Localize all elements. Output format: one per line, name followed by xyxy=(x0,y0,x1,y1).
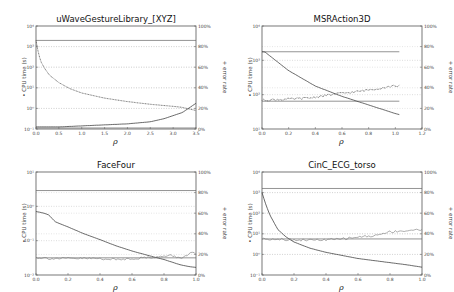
svg-text:80%: 80% xyxy=(424,44,435,49)
svg-text:10¹: 10¹ xyxy=(26,170,34,175)
svg-text:3.5: 3.5 xyxy=(192,131,199,136)
y-axis-label: • CPU time (s) xyxy=(21,193,27,253)
svg-text:80%: 80% xyxy=(424,190,435,195)
svg-text:80%: 80% xyxy=(198,44,209,49)
error-rate-series xyxy=(36,103,196,127)
svg-text:0.0: 0.0 xyxy=(32,277,39,282)
chart-title: FaceFour xyxy=(36,160,196,170)
svg-text:40%: 40% xyxy=(424,231,435,236)
svg-text:20%: 20% xyxy=(198,252,209,257)
x-axis-label: ρ xyxy=(339,283,344,292)
y-axis-label: • CPU time (s) xyxy=(21,47,27,107)
svg-text:10⁰: 10⁰ xyxy=(26,106,34,111)
cpu-time-series xyxy=(36,40,196,110)
svg-text:1.2: 1.2 xyxy=(418,131,425,136)
svg-text:40%: 40% xyxy=(424,85,435,90)
svg-text:10¹: 10¹ xyxy=(26,85,34,90)
svg-text:0.2: 0.2 xyxy=(64,277,71,282)
svg-text:10¹: 10¹ xyxy=(252,231,260,236)
svg-text:10²: 10² xyxy=(26,65,34,70)
x-axis-label: ρ xyxy=(113,137,118,146)
svg-text:0.4: 0.4 xyxy=(96,277,103,282)
svg-text:100%: 100% xyxy=(198,24,212,29)
svg-text:60%: 60% xyxy=(198,211,209,216)
chart-panel-2: 10¹10⁰10⁻¹10⁻²100%80%60%40%20%0%0.00.20.… xyxy=(0,146,226,292)
y-axis-label: • CPU time (s) xyxy=(247,47,253,107)
svg-text:2.0: 2.0 xyxy=(124,131,131,136)
cpu-time-series xyxy=(262,52,399,115)
svg-text:1.0: 1.0 xyxy=(392,131,399,136)
chart-title: uWaveGestureLibrary_[XYZ] xyxy=(36,14,196,24)
svg-text:10²: 10² xyxy=(252,92,260,97)
y2-axis-label: + error rate xyxy=(448,52,454,102)
svg-text:0.0: 0.0 xyxy=(258,131,265,136)
svg-text:40%: 40% xyxy=(198,85,209,90)
svg-text:60%: 60% xyxy=(424,211,435,216)
svg-text:20%: 20% xyxy=(424,106,435,111)
svg-text:0.2: 0.2 xyxy=(285,131,292,136)
svg-text:0.6: 0.6 xyxy=(354,277,361,282)
svg-text:1.0: 1.0 xyxy=(192,277,199,282)
svg-text:10³: 10³ xyxy=(252,58,260,63)
svg-text:10⁰: 10⁰ xyxy=(26,204,34,209)
svg-text:10⁴: 10⁴ xyxy=(26,24,34,29)
chart-panel-3: 10⁴10³10²10¹10⁰10⁻¹100%80%60%40%20%0%0.0… xyxy=(226,146,452,292)
y-axis-label: • CPU time (s) xyxy=(247,193,253,253)
svg-text:10⁰: 10⁰ xyxy=(252,252,260,257)
error-rate-series xyxy=(262,229,422,241)
svg-text:3.0: 3.0 xyxy=(170,131,177,136)
svg-text:10³: 10³ xyxy=(26,44,34,49)
svg-text:10⁴: 10⁴ xyxy=(252,24,260,29)
svg-text:1.5: 1.5 xyxy=(101,131,108,136)
chart-panel-0: 10⁴10³10²10¹10⁰10⁻¹100%80%60%40%20%0%0.0… xyxy=(0,0,226,146)
svg-text:100%: 100% xyxy=(424,170,438,175)
svg-text:100%: 100% xyxy=(424,24,438,29)
x-axis-label: ρ xyxy=(113,283,118,292)
svg-text:0.2: 0.2 xyxy=(290,277,297,282)
svg-text:1.0: 1.0 xyxy=(418,277,425,282)
svg-text:80%: 80% xyxy=(198,190,209,195)
svg-text:2.5: 2.5 xyxy=(147,131,154,136)
y2-axis-label: + error rate xyxy=(448,198,454,248)
svg-text:100%: 100% xyxy=(198,170,212,175)
svg-text:0.6: 0.6 xyxy=(128,277,135,282)
svg-text:0.8: 0.8 xyxy=(365,131,372,136)
svg-text:0.4: 0.4 xyxy=(322,277,329,282)
svg-text:10³: 10³ xyxy=(252,190,260,195)
svg-text:20%: 20% xyxy=(198,106,209,111)
svg-text:0.8: 0.8 xyxy=(386,277,393,282)
chart-title: CinC_ECG_torso xyxy=(262,160,422,170)
x-axis-label: ρ xyxy=(339,137,344,146)
svg-text:0.0: 0.0 xyxy=(258,277,265,282)
chart-title: MSRAction3D xyxy=(262,14,422,24)
svg-text:1.0: 1.0 xyxy=(78,131,85,136)
svg-text:10⁴: 10⁴ xyxy=(252,170,260,175)
svg-text:0.6: 0.6 xyxy=(338,131,345,136)
svg-text:10²: 10² xyxy=(252,211,260,216)
svg-text:0.5: 0.5 xyxy=(55,131,62,136)
chart-panel-1: 10⁴10³10²10¹100%80%60%40%20%0%0.00.20.40… xyxy=(226,0,452,146)
svg-text:60%: 60% xyxy=(198,65,209,70)
svg-text:0.0: 0.0 xyxy=(32,131,39,136)
svg-text:0.4: 0.4 xyxy=(312,131,319,136)
error-rate-series xyxy=(262,85,399,101)
svg-text:40%: 40% xyxy=(198,231,209,236)
svg-text:0.8: 0.8 xyxy=(160,277,167,282)
svg-text:60%: 60% xyxy=(424,65,435,70)
svg-text:20%: 20% xyxy=(424,252,435,257)
cpu-time-series xyxy=(262,193,422,268)
error-rate-series xyxy=(36,252,196,260)
